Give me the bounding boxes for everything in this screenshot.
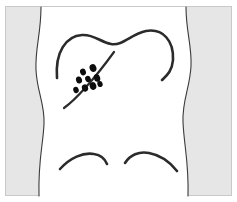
torso-body-fill	[36, 7, 191, 196]
torso-illustration	[0, 0, 237, 202]
torso-group	[36, 7, 191, 196]
illustration-frame	[0, 0, 237, 202]
